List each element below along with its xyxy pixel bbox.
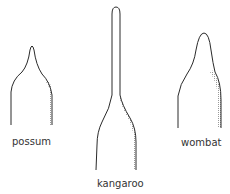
kangaroo-label: kangaroo xyxy=(97,178,144,189)
possum-label: possum xyxy=(12,136,51,147)
possum-outline xyxy=(11,46,52,125)
figure-canvas xyxy=(0,0,230,194)
wombat-label: wombat xyxy=(181,137,221,148)
kangaroo-outline xyxy=(96,7,136,170)
wombat-outline xyxy=(178,33,221,128)
